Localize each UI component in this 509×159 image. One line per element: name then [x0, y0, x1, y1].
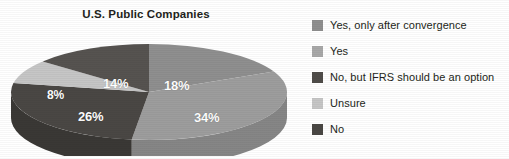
slice-label-yes-only-after-convergence: 18% — [164, 78, 189, 93]
slice-label-unsure: 8% — [47, 88, 64, 102]
legend-item-yes: Yes — [312, 44, 348, 58]
legend-item-yes-only-after-convergence: Yes, only after convergence — [312, 18, 467, 32]
legend-item-no-but-ifrs-should-be-an-option: No, but IFRS should be an option — [312, 70, 494, 84]
slice-label-yes: 34% — [194, 110, 219, 125]
slice-label-no: 14% — [103, 76, 128, 91]
legend-swatch-icon — [312, 72, 323, 83]
legend-item-no: No — [312, 122, 344, 136]
slice-label-no-but-ifrs-should-be-an-option: 26% — [78, 109, 103, 124]
legend-item-label: Unsure — [330, 97, 366, 109]
legend-item-label: No — [330, 123, 344, 135]
legend-item-unsure: Unsure — [312, 96, 366, 110]
legend-swatch-icon — [312, 98, 323, 109]
legend-item-label: No, but IFRS should be an option — [330, 71, 494, 83]
pie-chart-figure: U.S. Public Companies 18% 34% 26% 8% 14% — [0, 0, 509, 159]
legend-swatch-icon — [312, 46, 323, 57]
legend-swatch-icon — [312, 20, 323, 31]
chart-panel: U.S. Public Companies 18% 34% 26% 8% 14% — [0, 0, 292, 159]
chart-title: U.S. Public Companies — [0, 8, 292, 20]
legend-item-label: Yes — [330, 45, 348, 57]
legend-item-label: Yes, only after convergence — [330, 19, 467, 31]
chart-legend: Yes, only after convergence Yes No, but … — [312, 10, 509, 150]
legend-swatch-icon — [312, 124, 323, 135]
pie-chart: 18% 34% 26% 8% 14% — [6, 28, 292, 156]
